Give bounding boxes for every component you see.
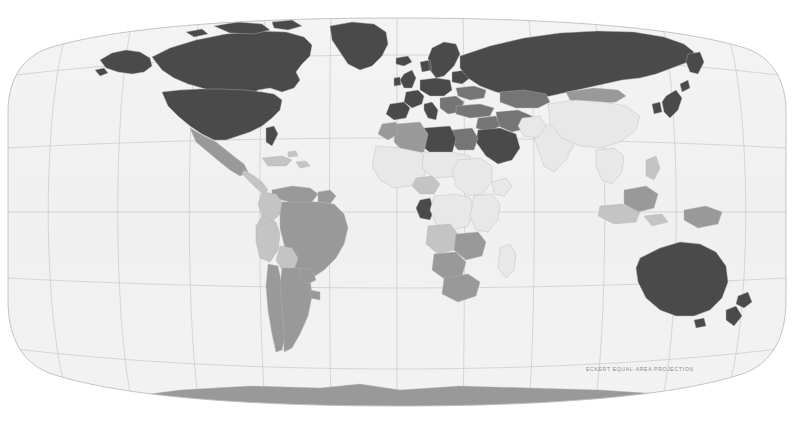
map-body: ECKERT EQUAL-AREA PROJECTION bbox=[0, 0, 794, 429]
projection-caption: ECKERT EQUAL-AREA PROJECTION bbox=[586, 366, 694, 372]
region-tasmania bbox=[694, 318, 706, 328]
world-map-figure: ECKERT EQUAL-AREA PROJECTION bbox=[0, 0, 794, 429]
region-south-korea bbox=[652, 102, 662, 114]
world-map-canvas: ECKERT EQUAL-AREA PROJECTION bbox=[0, 0, 794, 429]
region-ireland bbox=[394, 77, 401, 86]
